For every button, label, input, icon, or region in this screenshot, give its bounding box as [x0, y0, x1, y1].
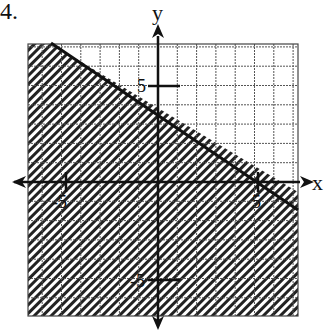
tick-label-x-pos5: 5 [252, 192, 261, 212]
y-axis-arrow-up-icon [152, 24, 164, 38]
x-axis-label: x [312, 170, 323, 195]
tick-label-y-neg5: -5 [130, 271, 145, 291]
inequality-graph: y x -5 5 5 -5 [0, 0, 324, 335]
y-axis-label: y [152, 0, 163, 25]
tick-label-x-neg5: -5 [52, 192, 67, 212]
tick-label-y-pos5: 5 [137, 76, 146, 96]
